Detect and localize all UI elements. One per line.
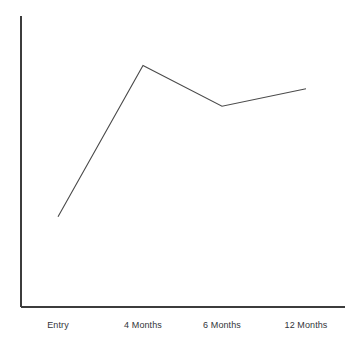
x-tick-label-6-months: 6 Months (203, 320, 241, 331)
line-chart: Entry 4 Months 6 Months 12 Months (0, 0, 355, 343)
x-tick-label-entry: Entry (47, 320, 69, 331)
data-series-line (58, 66, 306, 217)
x-tick-label-4-months: 4 Months (124, 320, 162, 331)
chart-canvas (0, 0, 355, 343)
x-tick-label-12-months: 12 Months (285, 320, 328, 331)
